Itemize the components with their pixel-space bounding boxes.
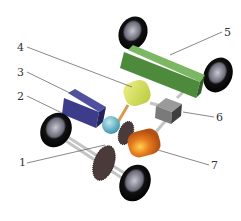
callout-label-1: 1 bbox=[19, 157, 26, 168]
component-2-sphere bbox=[102, 116, 120, 134]
wheel-front-right bbox=[113, 159, 156, 206]
callout-label-5: 5 bbox=[224, 27, 231, 38]
component-6-grey-box bbox=[155, 98, 182, 124]
component-4-yellow-cylinder bbox=[121, 78, 153, 109]
callout-label-4: 4 bbox=[17, 42, 24, 53]
drivetrain-diagram: 1 2 3 4 5 6 7 bbox=[0, 0, 241, 221]
callout-label-3: 3 bbox=[17, 67, 24, 78]
callout-label-2: 2 bbox=[17, 91, 24, 102]
callout-label-6: 6 bbox=[216, 112, 223, 123]
callout-label-7: 7 bbox=[211, 160, 218, 171]
